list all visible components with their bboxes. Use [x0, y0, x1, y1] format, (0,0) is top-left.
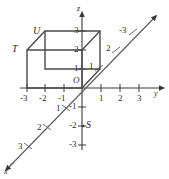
- tick-z-3: 3: [74, 26, 79, 35]
- tick-y-3: 3: [137, 94, 142, 103]
- tick-x-1: 1: [56, 104, 61, 113]
- point-label-s: S: [86, 120, 91, 130]
- tick-y-1: 1: [99, 94, 104, 103]
- rectangular-box: [27, 31, 100, 88]
- tick-z-2: 2: [74, 45, 79, 54]
- point-s-marker: [82, 125, 85, 128]
- tick-z-neg1: -1: [69, 102, 77, 111]
- point-label-t: T: [12, 44, 18, 54]
- tick-y-neg1: -1: [58, 94, 66, 103]
- tick-x-2: 2: [37, 123, 42, 132]
- tick-x-neg3: -3: [119, 26, 127, 35]
- tick-x-neg1: 1: [89, 62, 94, 71]
- axis-label-x: x: [4, 168, 8, 176]
- tick-y-neg3: -3: [20, 94, 28, 103]
- tick-z-1: 1: [74, 64, 79, 73]
- point-label-u: U: [33, 26, 40, 36]
- tick-x-neg2: 2: [106, 44, 111, 53]
- axes-and-box-drawing: [0, 0, 169, 179]
- tick-y-neg2: -2: [39, 94, 47, 103]
- axis-label-z: z: [77, 5, 80, 13]
- tick-z-neg2: -2: [69, 121, 77, 130]
- coordinate-figure: 3 2 1 -1 -2 -3 1 2 3 -3 -2 -1 1 2 3 1 2 …: [0, 0, 169, 179]
- tick-x-3: 3: [18, 142, 23, 151]
- axis-label-y: y: [154, 90, 158, 98]
- tick-y-2: 2: [118, 94, 123, 103]
- origin-label-o: O: [73, 76, 80, 85]
- x-axis-line: [7, 17, 155, 169]
- tick-z-neg3: -3: [69, 140, 77, 149]
